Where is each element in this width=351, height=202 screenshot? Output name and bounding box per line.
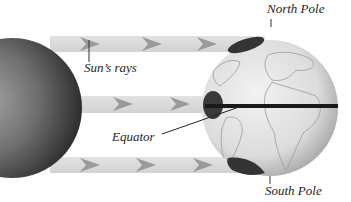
north-pole-label: North Pole bbox=[267, 1, 324, 17]
equator-line bbox=[205, 104, 338, 108]
south-pole-label: South Pole bbox=[265, 183, 322, 199]
earth-globe bbox=[202, 33, 338, 176]
equator-label: Equator bbox=[112, 129, 155, 145]
diagram-canvas bbox=[0, 0, 351, 202]
suns-rays-label: Sun’s rays bbox=[84, 60, 137, 76]
diagram-stage: North Pole Sun’s rays Equator South Pole bbox=[0, 0, 351, 202]
